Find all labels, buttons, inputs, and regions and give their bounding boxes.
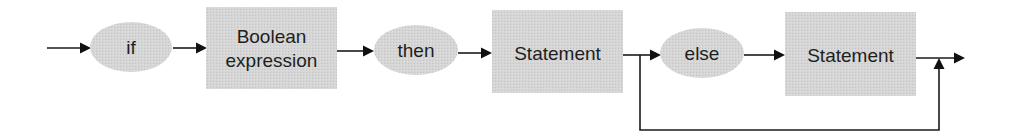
statement1-node: Statement: [492, 10, 623, 93]
arrow-statement1-to-else: [623, 50, 661, 61]
if-then-else-syntax-diagram: if Boolean expression then Statement: [0, 0, 1010, 139]
else-label: else: [685, 43, 720, 64]
then-label: then: [398, 40, 435, 61]
boolean-expression-label-line2: expression: [226, 50, 318, 71]
arrow-then-to-statement1: [458, 48, 492, 59]
boolean-expression-label-line1: Boolean: [237, 26, 307, 47]
bypass-join-arrowhead: [934, 58, 945, 69]
statement2-node: Statement: [785, 12, 916, 96]
if-node: if: [90, 22, 172, 72]
boolean-expression-node: Boolean expression: [206, 7, 337, 89]
statement1-label: Statement: [514, 43, 601, 64]
then-node: then: [374, 25, 458, 75]
arrow-else-to-statement2: [744, 50, 785, 61]
entry-arrow: [47, 43, 91, 54]
if-label: if: [126, 37, 136, 58]
arrow-if-to-boolean: [173, 43, 207, 54]
else-node: else: [660, 28, 744, 78]
arrow-boolean-to-then: [337, 46, 374, 57]
statement2-label: Statement: [807, 45, 894, 66]
boolean-expression-box: [206, 7, 337, 89]
